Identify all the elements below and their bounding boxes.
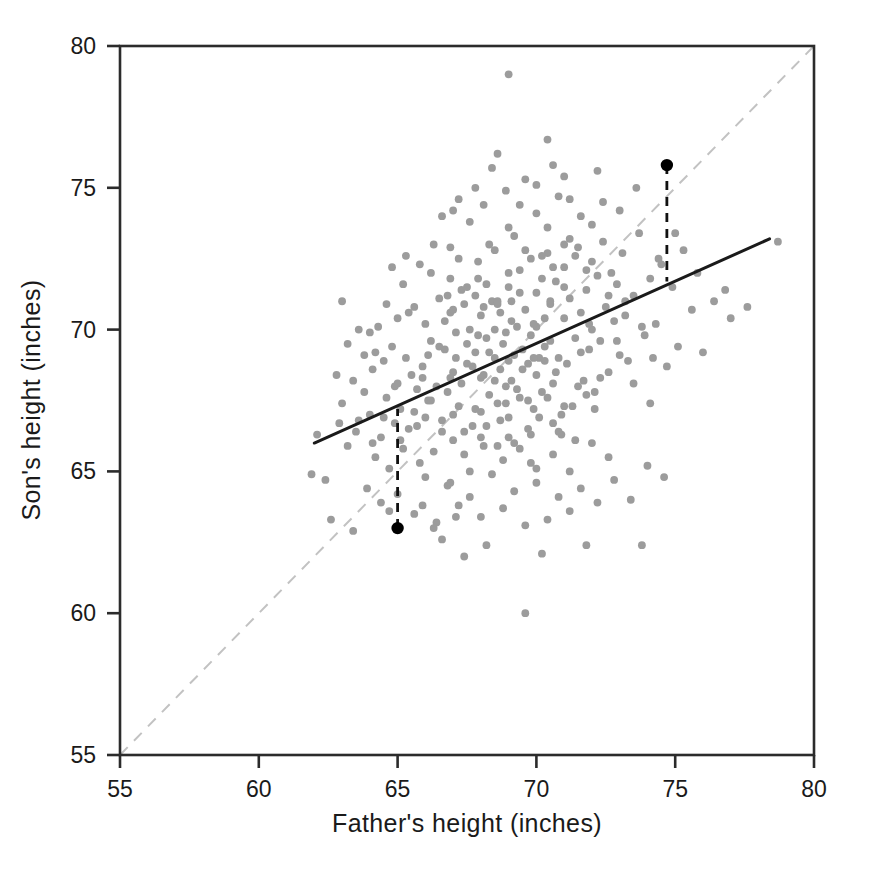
scatter-point: [380, 357, 388, 365]
scatter-point: [505, 70, 513, 78]
scatter-point: [471, 184, 479, 192]
scatter-point: [313, 431, 321, 439]
scatter-point: [580, 377, 588, 385]
scatter-point: [605, 453, 613, 461]
scatter-point: [674, 343, 682, 351]
scatter-point: [521, 246, 529, 254]
scatter-point: [538, 388, 546, 396]
y-tick-label: 75: [70, 175, 96, 201]
scatter-point: [519, 365, 527, 373]
scatter-point: [452, 513, 460, 521]
scatter-point: [582, 266, 590, 274]
scatter-point: [402, 252, 410, 260]
scatter-point: [688, 306, 696, 314]
scatter-point: [499, 456, 507, 464]
scatter-point: [460, 450, 468, 458]
scatter-point: [474, 275, 482, 283]
scatter-point: [402, 354, 410, 362]
scatter-point: [458, 380, 466, 388]
x-tick-label: 80: [801, 776, 827, 802]
scatter-point: [499, 504, 507, 512]
scatter-point: [483, 541, 491, 549]
x-axis-title: Father's height (inches): [332, 809, 602, 837]
scatter-point: [308, 470, 316, 478]
scatter-point: [605, 368, 613, 376]
scatter-point: [421, 414, 429, 422]
scatter-point: [638, 541, 646, 549]
scatter-point: [619, 249, 627, 257]
scatter-point: [533, 289, 541, 297]
figure-background: [0, 0, 869, 871]
scatter-point: [613, 280, 621, 288]
scatter-point: [427, 397, 435, 405]
scatter-point: [383, 300, 391, 308]
scatter-point: [371, 453, 379, 461]
scatter-point: [646, 275, 654, 283]
scatter-point: [380, 414, 388, 422]
scatter-point: [582, 541, 590, 549]
scatter-point: [544, 136, 552, 144]
scatter-point: [577, 309, 585, 317]
scatter-point: [446, 243, 454, 251]
scatter-point: [405, 309, 413, 317]
scatter-point: [644, 462, 652, 470]
scatter-point: [413, 385, 421, 393]
right-marker-dot: [661, 159, 673, 171]
scatter-point: [533, 479, 541, 487]
scatter-point: [371, 348, 379, 356]
scatter-point: [680, 246, 688, 254]
scatter-point: [446, 275, 454, 283]
left-marker-dot: [391, 522, 403, 534]
scatter-point: [546, 297, 554, 305]
scatter-point: [524, 360, 532, 368]
scatter-point: [552, 277, 560, 285]
scatter-point: [671, 229, 679, 237]
scatter-point: [727, 314, 735, 322]
scatter-point: [463, 283, 471, 291]
scatter-point: [349, 527, 357, 535]
scatter-point: [502, 382, 510, 390]
scatter-point: [469, 363, 477, 371]
scatter-point: [430, 241, 438, 249]
scatter-point: [430, 524, 438, 532]
scatter-point: [599, 198, 607, 206]
scatter-point: [369, 439, 377, 447]
scatter-point: [541, 357, 549, 365]
scatter-point: [496, 365, 504, 373]
scatter-point: [466, 326, 474, 334]
scatter-point: [582, 391, 590, 399]
scatter-point: [530, 405, 538, 413]
scatter-point: [621, 312, 629, 320]
scatter-point: [555, 192, 563, 200]
scatter-point: [405, 425, 413, 433]
scatter-point: [416, 459, 424, 467]
scatter-point: [594, 272, 602, 280]
scatter-point: [549, 263, 557, 271]
scatter-point: [566, 195, 574, 203]
scatter-point: [613, 337, 621, 345]
scatter-point: [591, 405, 599, 413]
scatter-point: [399, 280, 407, 288]
scatter-point: [588, 258, 596, 266]
scatter-point: [569, 402, 577, 410]
scatter-point: [344, 442, 352, 450]
scatter-point: [505, 433, 513, 441]
scatter-point: [449, 411, 457, 419]
scatter-point: [560, 283, 568, 291]
scatter-point: [460, 300, 468, 308]
scatter-point: [455, 195, 463, 203]
scatter-point: [452, 354, 460, 362]
scatter-point: [394, 314, 402, 322]
scatter-point: [510, 439, 518, 447]
scatter-point: [352, 428, 360, 436]
scatter-point: [538, 550, 546, 558]
scatter-point: [627, 496, 635, 504]
scatter-point: [419, 502, 427, 510]
scatter-point: [549, 419, 557, 427]
scatter-point: [438, 428, 446, 436]
scatter-point: [624, 357, 632, 365]
y-tick-label: 55: [70, 742, 96, 768]
figure-page: 556065707580 556065707580 Father's heigh…: [0, 0, 869, 871]
scatter-point: [521, 306, 529, 314]
scatter-point: [494, 297, 502, 305]
